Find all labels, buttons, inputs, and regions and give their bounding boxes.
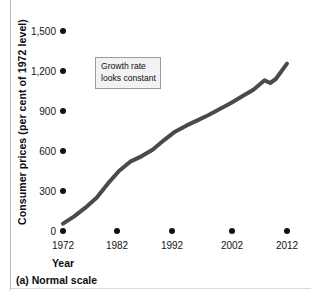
figure-panel: Consumer prices (per cent of 1972 level)…: [0, 0, 321, 299]
consumer-price-line-series: [0, 0, 321, 299]
figure-caption: (a) Normal scale: [16, 274, 97, 286]
annotation-callout: Growth rate looks constant: [95, 57, 161, 89]
annotation-line-1: Growth rate: [101, 61, 156, 73]
plot-area: [0, 0, 321, 299]
annotation-line-2: looks constant: [101, 73, 156, 85]
